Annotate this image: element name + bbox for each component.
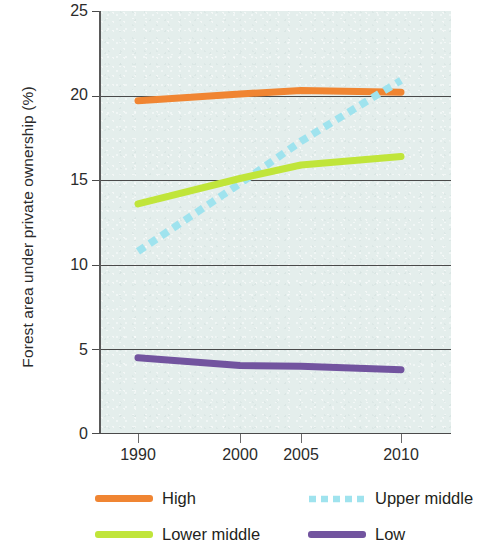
legend-item-lower-middle: Lower middle [95,523,260,545]
data-series-layer [99,11,451,434]
series-line-low [138,358,401,370]
legend-label-high: High [162,490,196,507]
series-line-upper-middle [138,80,401,251]
y-tick-label-25: 25 [40,3,88,19]
legend-swatch-low [308,531,366,538]
x-tick-label-2010: 2010 [366,446,436,464]
legend-swatch-lower-middle [95,531,153,538]
y-tick-label-10: 10 [40,257,88,273]
chart-legend: High Upper middle Lower middle Low [95,487,495,553]
y-tick-label-15: 15 [40,172,88,188]
x-tick-label-1990: 1990 [103,446,173,464]
y-tick-label-5: 5 [40,342,88,358]
legend-label-low: Low [375,526,405,543]
x-tickmark-2010 [401,434,402,443]
legend-swatch-high [95,495,153,502]
y-axis-title: Forest area under private ownership (%) [19,47,37,407]
legend-item-high: High [95,487,196,509]
y-tick-label-0: 0 [40,426,88,442]
series-line-high [138,91,401,101]
y-tick-label-20: 20 [40,87,88,103]
chart-figure: Forest area under private ownership (%) … [0,0,499,553]
y-axis-tick-labels: 25 20 15 10 5 0 [40,0,88,440]
x-tick-label-2000: 2000 [205,446,275,464]
x-tickmark-1990 [138,434,139,443]
legend-label-lower-middle: Lower middle [162,526,260,543]
legend-item-upper-middle: Upper middle [308,487,473,509]
legend-label-upper-middle: Upper middle [375,490,473,507]
x-tickmark-2000 [240,434,241,443]
legend-item-low: Low [308,523,405,545]
x-tick-label-2005: 2005 [266,446,336,464]
x-tickmark-2005 [301,434,302,443]
legend-swatch-upper-middle [308,495,366,502]
